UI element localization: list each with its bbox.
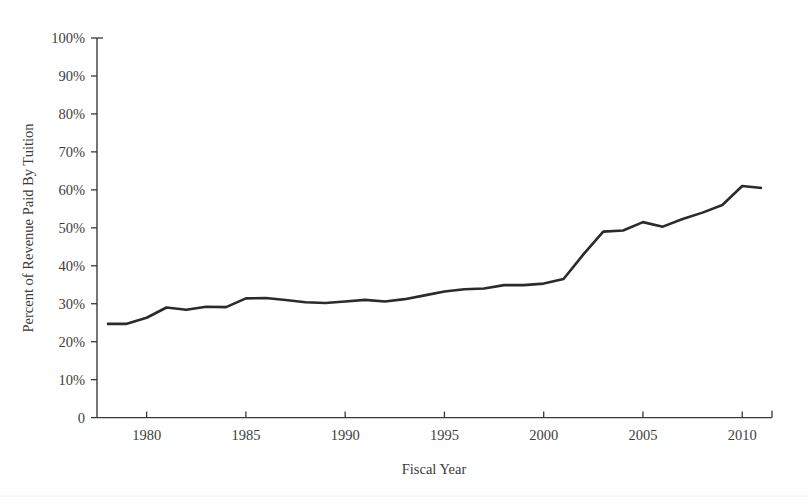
- y-axis-tick-label: 0: [78, 410, 85, 426]
- x-axis-ticks: [147, 411, 772, 418]
- y-axis-tick-label: 80%: [58, 106, 85, 122]
- chart-page: 010%20%30%40%50%60%70%80%90%100% 1980198…: [0, 0, 808, 503]
- line-chart: 010%20%30%40%50%60%70%80%90%100% 1980198…: [0, 0, 808, 503]
- y-axis-tick-label: 60%: [58, 182, 85, 198]
- y-axis-tick-label: 30%: [58, 296, 85, 312]
- y-axis-tick-label: 100%: [51, 30, 85, 46]
- x-axis-tick-label: 2000: [529, 427, 558, 443]
- x-axis-tick-label: 2010: [728, 427, 757, 443]
- chart-svg: 010%20%30%40%50%60%70%80%90%100% 1980198…: [0, 0, 808, 503]
- y-axis-group: 010%20%30%40%50%60%70%80%90%100%: [51, 30, 103, 426]
- x-axis-tick-label: 1990: [331, 427, 360, 443]
- x-axis-tick-label: 1985: [231, 427, 260, 443]
- x-axis-group: 1980198519901995200020052010: [97, 411, 772, 443]
- y-axis-tick-label: 20%: [58, 334, 85, 350]
- x-axis-tick-label: 1995: [430, 427, 459, 443]
- y-axis-tick-label: 40%: [58, 258, 85, 274]
- y-axis-title: Percent of Revenue Paid By Tuition: [20, 123, 36, 333]
- y-axis-tick-label: 10%: [58, 372, 85, 388]
- y-axis-tick-label: 70%: [58, 144, 85, 160]
- x-axis-tick-label: 2005: [628, 427, 657, 443]
- x-axis-title: Fiscal Year: [402, 461, 467, 477]
- y-axis-tick-labels: 010%20%30%40%50%60%70%80%90%100%: [51, 30, 85, 426]
- data-series-group: [107, 186, 762, 324]
- x-axis-tick-label: 1980: [132, 427, 161, 443]
- x-axis-tick-labels: 1980198519901995200020052010: [132, 427, 757, 443]
- y-axis-tick-label: 50%: [58, 220, 85, 236]
- tuition-revenue-line: [107, 186, 762, 324]
- y-axis-tick-label: 90%: [58, 68, 85, 84]
